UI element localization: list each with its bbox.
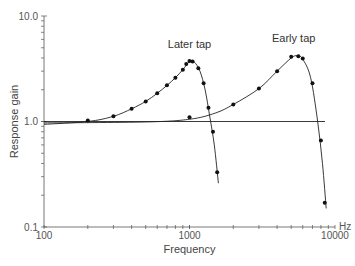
data-point — [231, 102, 235, 106]
data-point — [184, 62, 188, 66]
data-point — [206, 106, 210, 110]
y-axis-title: Response gain — [8, 85, 20, 158]
data-point — [211, 130, 215, 134]
x-tick-label: 1000 — [178, 230, 201, 241]
data-point — [86, 119, 90, 123]
data-point — [188, 115, 192, 119]
data-point — [173, 76, 177, 80]
data-point — [155, 91, 159, 95]
data-points — [86, 54, 327, 204]
data-point — [196, 66, 200, 70]
data-point — [289, 55, 293, 59]
data-point — [144, 99, 148, 103]
data-point — [323, 201, 327, 205]
early-tap-label: Early tap — [272, 32, 315, 44]
x-axis-title: Frequency — [164, 243, 216, 255]
x-tick-label: 100 — [36, 230, 53, 241]
x-unit-label: Hz — [339, 221, 351, 232]
data-point — [191, 60, 195, 64]
data-point — [130, 107, 134, 111]
data-point — [165, 83, 169, 87]
data-point — [301, 57, 305, 61]
fit-curves — [44, 56, 326, 209]
data-point — [310, 81, 314, 85]
data-point — [257, 87, 261, 91]
data-point — [111, 114, 115, 118]
early-tap-curve — [44, 56, 326, 209]
y-tick-label: 1.0 — [24, 116, 38, 127]
data-point — [202, 81, 206, 85]
later-tap-label: Later tap — [168, 38, 211, 50]
labels: 0.11.010.0100100010000HzFrequencyRespons… — [8, 11, 351, 256]
data-point — [215, 170, 219, 174]
data-point — [319, 139, 323, 143]
data-point — [275, 69, 279, 73]
frequency-response-chart: 0.11.010.0100100010000HzFrequencyRespons… — [0, 0, 355, 266]
data-point — [296, 54, 300, 58]
data-point — [181, 68, 185, 72]
y-tick-label: 10.0 — [19, 11, 39, 22]
